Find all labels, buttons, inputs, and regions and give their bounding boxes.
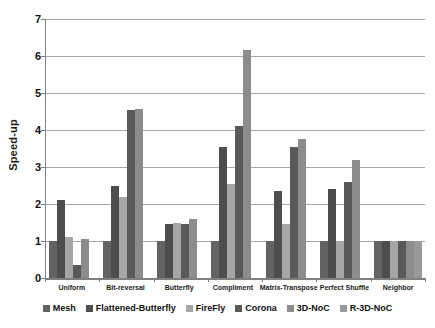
bar-groups [46,19,425,278]
bar-3d-noc-matrix-transpose [298,139,306,278]
x-tick-mark-7 [425,278,426,282]
bar-flattened-butterfly-compliment [219,147,227,278]
y-tick-label-5: 5 [5,88,41,99]
bar-firefly-uniform [65,237,73,278]
chart-legend: MeshFlattened-ButterflyFireFlyCorona3D-N… [0,299,435,317]
bar-mesh-butterfly [157,241,165,278]
bar-group-bit-reversal [100,19,154,278]
legend-label: Mesh [53,303,76,313]
bar-group-perfect-shuffle [317,19,371,278]
x-axis-label-bit-reversal: Bit-reversal [99,282,153,296]
y-axis-ticks: 01234567 [0,19,41,278]
x-axis-label-neighbor: Neighbor [371,282,425,296]
bar-corona-uniform [73,265,81,278]
legend-label: Flattened-Butterfly [96,303,176,313]
y-tick-label-1: 1 [5,236,41,247]
bar-mesh-uniform [49,241,57,278]
x-axis-label-butterfly: Butterfly [152,282,206,296]
bar-group-butterfly [154,19,208,278]
legend-swatch-icon [186,305,193,312]
y-tick-label-3: 3 [5,162,41,173]
bar-firefly-compliment [227,184,235,278]
legend-item-r-3d-noc[interactable]: R-3D-NoC [340,303,393,313]
y-tick-label-0: 0 [5,273,41,284]
bar-corona-butterfly [181,224,189,278]
legend-label: 3D-NoC [297,303,330,313]
legend-swatch-icon [235,305,242,312]
bar-corona-neighbor [398,241,406,278]
x-axis-label-perfect-shuffle: Perfect Shuffle [318,282,372,296]
bar-mesh-neighbor [374,241,382,278]
legend-swatch-icon [340,305,347,312]
legend-label: FireFly [196,303,226,313]
bar-group-neighbor [371,19,425,278]
bar-flattened-butterfly-perfect-shuffle [328,189,336,278]
bar-firefly-matrix-transpose [282,224,290,278]
bar-mesh-perfect-shuffle [320,241,328,278]
bar-r-3d-noc-neighbor [414,241,422,278]
legend-swatch-icon [43,305,50,312]
bar-flattened-butterfly-matrix-transpose [274,191,282,278]
bar-3d-noc-compliment [243,50,251,278]
y-tick-label-6: 6 [5,51,41,62]
bar-flattened-butterfly-bit-reversal [111,186,119,279]
bar-3d-noc-bit-reversal [135,109,143,278]
legend-swatch-icon [86,305,93,312]
bar-firefly-butterfly [173,223,181,279]
legend-label: Corona [245,303,277,313]
y-tick-label-4: 4 [5,125,41,136]
x-axis-label-uniform: Uniform [45,282,99,296]
legend-item-3d-noc[interactable]: 3D-NoC [287,303,330,313]
bar-mesh-bit-reversal [103,241,111,278]
bar-flattened-butterfly-butterfly [165,224,173,278]
bar-group-uniform [46,19,100,278]
bar-firefly-bit-reversal [119,197,127,278]
bar-3d-noc-perfect-shuffle [352,160,360,278]
speedup-bar-chart: Speed-up 01234567 UniformBit-reversalBut… [0,0,435,328]
legend-label: R-3D-NoC [350,303,393,313]
x-axis-label-matrix-transpose: Matrix-Transpose [260,282,318,296]
bar-group-matrix-transpose [263,19,317,278]
bar-flattened-butterfly-neighbor [382,241,390,278]
bar-flattened-butterfly-uniform [57,200,65,278]
bar-mesh-matrix-transpose [266,241,274,278]
bar-corona-compliment [235,126,243,278]
x-axis-labels: UniformBit-reversalButterflyComplimentMa… [45,282,425,296]
bar-group-compliment [208,19,262,278]
bar-corona-perfect-shuffle [344,182,352,278]
legend-item-corona[interactable]: Corona [235,303,277,313]
bar-3d-noc-neighbor [406,241,414,278]
bar-firefly-neighbor [390,241,398,278]
plot-area [45,19,425,278]
legend-item-mesh[interactable]: Mesh [43,303,76,313]
bar-3d-noc-uniform [81,239,89,278]
bar-mesh-compliment [211,241,219,278]
y-tick-label-7: 7 [5,14,41,25]
legend-swatch-icon [287,305,294,312]
bar-corona-matrix-transpose [290,147,298,278]
bar-corona-bit-reversal [127,110,135,278]
x-axis-label-compliment: Compliment [206,282,260,296]
bar-firefly-perfect-shuffle [336,241,344,278]
legend-item-firefly[interactable]: FireFly [186,303,226,313]
y-tick-label-2: 2 [5,199,41,210]
bar-3d-noc-butterfly [189,219,197,278]
legend-item-flattened-butterfly[interactable]: Flattened-Butterfly [86,303,176,313]
